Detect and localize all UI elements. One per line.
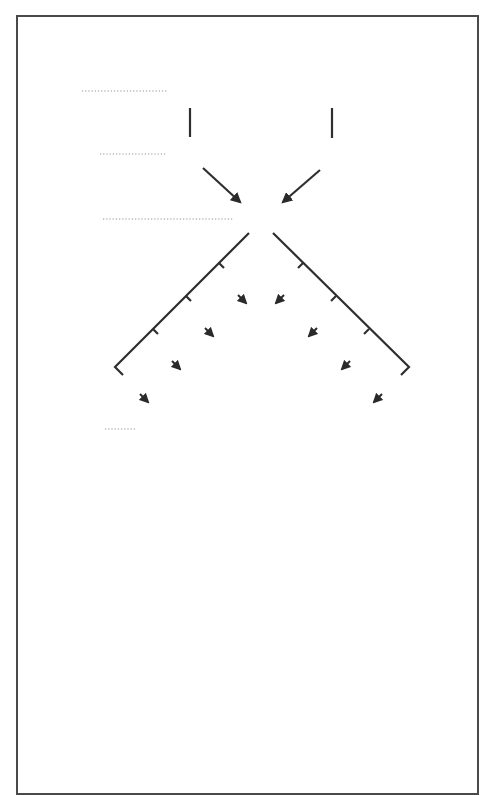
row-labels: [82, 91, 233, 429]
connector-lines: [115, 108, 409, 375]
gamete-arrows: [140, 295, 382, 402]
